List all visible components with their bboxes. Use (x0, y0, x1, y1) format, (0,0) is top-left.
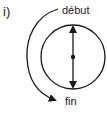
rotation-arrow (27, 9, 58, 100)
diagram-figure: i) début fin (0, 0, 107, 119)
center-point (71, 55, 75, 59)
diagram-svg (0, 0, 107, 119)
